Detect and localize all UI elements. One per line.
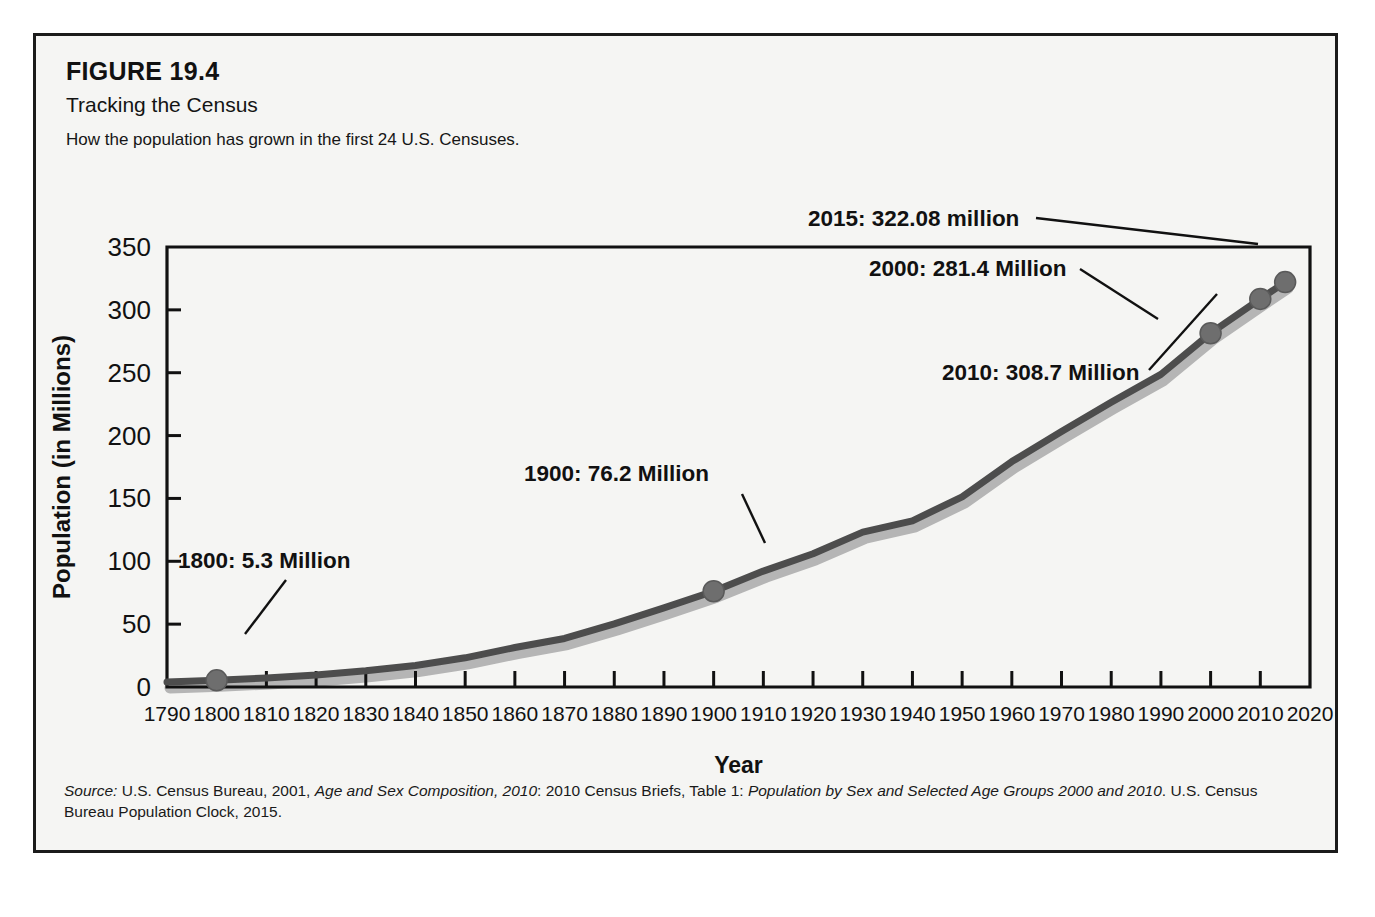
annotation-leader-line xyxy=(1036,218,1258,244)
x-tick-label: 1790 xyxy=(144,702,191,725)
x-tick-label: 1850 xyxy=(442,702,489,725)
y-tick-label: 250 xyxy=(108,358,151,388)
x-tick-label: 1960 xyxy=(988,702,1035,725)
annotation-label: 2015: 322.08 million xyxy=(808,206,1019,231)
x-tick-label: 1950 xyxy=(939,702,986,725)
annotation-leader-lines xyxy=(245,218,1258,634)
x-tick-label: 1920 xyxy=(790,702,837,725)
population-line xyxy=(167,282,1285,682)
x-tick-label: 1870 xyxy=(541,702,588,725)
x-tick-label: 2010 xyxy=(1237,702,1284,725)
annotation-label: 2010: 308.7 Million xyxy=(942,360,1140,385)
figure-subtitle: How the population has grown in the firs… xyxy=(66,130,966,150)
figure-title: Tracking the Census xyxy=(66,93,966,116)
x-tick-label: 2020 xyxy=(1287,702,1334,725)
annotation-leader-line xyxy=(742,494,765,543)
x-tick-label: 2000 xyxy=(1187,702,1234,725)
x-tick-label: 1830 xyxy=(342,702,389,725)
x-tick-label: 1990 xyxy=(1138,702,1185,725)
annotation-label: 1800: 5.3 Million xyxy=(178,548,351,573)
y-tick-label: 200 xyxy=(108,421,151,451)
data-point-marker xyxy=(1275,272,1296,293)
x-tick-label: 1940 xyxy=(889,702,936,725)
x-tick-label: 1930 xyxy=(839,702,886,725)
annotation-label: 2000: 281.4 Million xyxy=(869,256,1067,281)
annotation-leader-line xyxy=(245,580,286,634)
x-tick-label: 1810 xyxy=(243,702,290,725)
x-tick-label: 1890 xyxy=(641,702,688,725)
y-tick-label: 300 xyxy=(108,295,151,325)
x-axis-title: Year xyxy=(714,752,763,776)
data-point-marker xyxy=(1200,323,1221,344)
source-text-2: : 2010 Census Briefs, Table 1: xyxy=(537,782,748,799)
line-chart-svg: 0501001502002503003501790180018101820183… xyxy=(36,176,1335,776)
x-tick-label: 1840 xyxy=(392,702,439,725)
annotation-label: 1900: 76.2 Million xyxy=(524,461,709,486)
y-tick-label: 350 xyxy=(108,232,151,262)
source-note: Source: U.S. Census Bureau, 2001, Age an… xyxy=(64,781,1309,823)
figure-container: FIGURE 19.4 Tracking the Census How the … xyxy=(33,33,1338,853)
line-shadow-path xyxy=(170,288,1288,688)
source-label: Source: xyxy=(64,782,117,799)
x-tick-label: 1910 xyxy=(740,702,787,725)
chart-plot-area: 0501001502002503003501790180018101820183… xyxy=(36,176,1335,776)
data-point-marker xyxy=(206,670,227,691)
source-italic-1: Age and Sex Composition, 2010 xyxy=(315,782,537,799)
source-text-1: U.S. Census Bureau, 2001, xyxy=(117,782,314,799)
data-point-marker xyxy=(703,581,724,602)
data-point-markers xyxy=(206,272,1295,691)
y-tick-label: 150 xyxy=(108,483,151,513)
y-axis-title: Population (in Millions) xyxy=(48,335,75,599)
chart-axes xyxy=(167,247,1310,687)
y-tick-label: 100 xyxy=(108,546,151,576)
y-tick-label: 0 xyxy=(137,672,151,702)
chart-tick-labels: 0501001502002503003501790180018101820183… xyxy=(108,232,1334,725)
x-tick-label: 1900 xyxy=(690,702,737,725)
line-shadow xyxy=(170,288,1288,688)
x-tick-label: 1880 xyxy=(591,702,638,725)
x-tick-label: 1800 xyxy=(193,702,240,725)
x-tick-label: 1970 xyxy=(1038,702,1085,725)
y-tick-label: 50 xyxy=(122,609,151,639)
population-line-path xyxy=(167,282,1285,682)
annotation-labels: 1800: 5.3 Million1900: 76.2 Million2000:… xyxy=(178,206,1140,573)
x-tick-label: 1820 xyxy=(293,702,340,725)
figure-number: FIGURE 19.4 xyxy=(66,58,966,84)
annotation-leader-line xyxy=(1080,269,1158,319)
source-italic-2: Population by Sex and Selected Age Group… xyxy=(748,782,1162,799)
figure-header: FIGURE 19.4 Tracking the Census How the … xyxy=(66,58,966,151)
x-tick-label: 1860 xyxy=(492,702,539,725)
data-point-marker xyxy=(1250,288,1271,309)
x-tick-label: 1980 xyxy=(1088,702,1135,725)
